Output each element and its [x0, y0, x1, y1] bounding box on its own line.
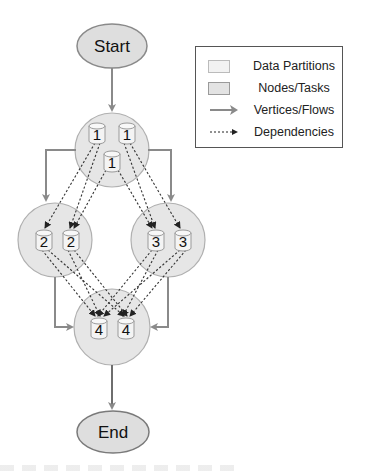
partition-1b: 1: [119, 123, 135, 144]
partition-4b: 4: [118, 318, 134, 339]
legend-item-dependencies: Dependencies: [196, 121, 342, 143]
cropped-caption-fragment: [0, 465, 240, 471]
partition-4a: 4: [91, 318, 107, 339]
flow-1-to-3: [148, 150, 171, 200]
node-stage-3: [131, 203, 205, 277]
legend-item-data-partitions: Data Partitions: [196, 55, 342, 77]
svg-text:3: 3: [152, 233, 160, 250]
svg-text:1: 1: [93, 126, 101, 143]
svg-text:1: 1: [108, 154, 116, 171]
partition-2a: 2: [36, 230, 52, 251]
svg-text:2: 2: [67, 233, 75, 250]
legend-item-vertices-flows: Vertices/Flows: [196, 99, 342, 121]
svg-text:4: 4: [95, 321, 103, 338]
partition-3b: 3: [175, 230, 191, 251]
solid-arrow-icon: [208, 99, 240, 121]
svg-text:1: 1: [123, 126, 131, 143]
node-swatch-icon: [208, 82, 230, 95]
node-stage-1: [75, 113, 149, 187]
partition-1c: 1: [104, 151, 120, 172]
flow-3-to-4: [152, 277, 168, 327]
legend: Data Partitions Nodes/Tasks Vertices/Flo…: [195, 46, 343, 148]
end-label: End: [98, 423, 128, 442]
start-label: Start: [94, 37, 130, 56]
partition-3a: 3: [148, 230, 164, 251]
node-stage-2: [18, 203, 92, 277]
start-terminal: Start: [77, 24, 147, 68]
legend-item-nodes-tasks: Nodes/Tasks: [196, 77, 342, 99]
svg-text:3: 3: [179, 233, 187, 250]
svg-text:2: 2: [40, 233, 48, 250]
svg-text:4: 4: [122, 321, 130, 338]
node-stage-4: [74, 289, 150, 365]
partition-2b: 2: [63, 230, 79, 251]
end-terminal: End: [77, 411, 149, 453]
partition-1a: 1: [89, 123, 105, 144]
flow-1-to-2: [46, 150, 76, 200]
partition-swatch-icon: [208, 60, 230, 73]
dotted-arrow-icon: [208, 121, 240, 143]
